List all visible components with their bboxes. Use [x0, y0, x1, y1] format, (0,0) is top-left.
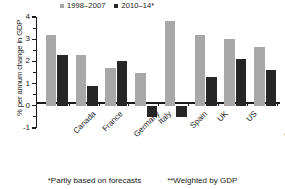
y-axis-line — [36, 17, 37, 128]
chart-footnotes: *Partly based on forecasts **Weighted by… — [0, 176, 285, 185]
footnote-forecasts: *Partly based on forecasts — [48, 176, 141, 185]
y-axis-tick-label: -1 — [23, 124, 30, 132]
bar-uk-series1 — [195, 35, 206, 106]
bar-spain-series2 — [176, 106, 187, 117]
bar-france-series2 — [87, 86, 98, 106]
y-axis-minor-tick — [33, 94, 36, 95]
x-axis-tick — [158, 102, 159, 105]
x-axis-tick — [99, 102, 100, 105]
y-axis-minor-tick — [33, 72, 36, 73]
bar-italy-series1 — [135, 73, 146, 106]
y-axis-tick — [32, 39, 36, 40]
y-axis-tick — [32, 105, 36, 106]
bar-canada-series1 — [46, 35, 57, 106]
y-axis-tick — [32, 16, 36, 17]
bar-france-series1 — [76, 55, 87, 106]
x-axis-tick — [128, 102, 129, 105]
chart-legend: 1998–2007 2010–14* — [60, 2, 154, 10]
y-axis-tick-label: 0 — [26, 102, 30, 110]
y-axis-title: % per annum change in GDP — [16, 0, 24, 136]
x-axis-tick — [218, 102, 219, 105]
y-axis-minor-tick — [33, 116, 36, 117]
legend-swatch-icon — [60, 4, 64, 8]
x-axis-label-average: Average** — [283, 110, 285, 141]
y-axis-minor-tick — [33, 50, 36, 51]
bar-us-series2 — [236, 59, 247, 106]
y-axis-minor-tick — [33, 28, 36, 29]
bar-us-series1 — [224, 39, 235, 106]
legend-label: 1998–2007 — [67, 2, 105, 10]
bar-germany-series1 — [105, 68, 116, 106]
y-axis-tick-label: 4 — [26, 13, 30, 21]
bar-average-series2 — [266, 70, 277, 106]
x-axis-tick — [69, 102, 70, 105]
legend-label: 2010–14* — [121, 2, 154, 10]
bar-spain-series1 — [165, 21, 176, 105]
bar-canada-series2 — [57, 55, 68, 106]
y-axis-tick-label: 2 — [26, 57, 30, 65]
x-axis-tick — [247, 102, 248, 105]
x-axis-tick — [188, 102, 189, 105]
legend-swatch-icon — [114, 4, 118, 8]
y-axis-tick — [32, 127, 36, 128]
y-axis-tick — [32, 61, 36, 62]
x-axis-tick — [277, 102, 278, 105]
y-axis-tick-label: 1 — [26, 80, 30, 88]
bar-average-series1 — [254, 47, 265, 106]
bar-uk-series2 — [206, 77, 217, 106]
y-axis-tick — [32, 83, 36, 84]
y-axis-tick-label: 3 — [26, 35, 30, 43]
legend-item-2010-14: 2010–14* — [114, 2, 154, 10]
legend-item-1998-2007: 1998–2007 — [60, 2, 105, 10]
footnote-weighted: **Weighted by GDP — [167, 176, 237, 185]
bar-germany-series2 — [117, 61, 128, 105]
bar-chart-figure: 1998–2007 2010–14* % per annum change in… — [0, 0, 285, 189]
